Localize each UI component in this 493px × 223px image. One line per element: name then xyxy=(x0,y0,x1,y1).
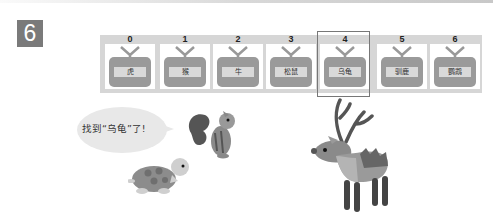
array-index-label: 3 xyxy=(266,34,316,44)
array-index-label: 6 xyxy=(430,34,480,44)
top-rule xyxy=(0,0,493,3)
array-cell: 松鼠 xyxy=(266,44,316,89)
tv-box-icon: 鹦鹉 xyxy=(434,57,476,87)
speech-bubble-text: 找到“乌龟”了! xyxy=(82,121,172,135)
array-cell: 猴 xyxy=(160,44,210,89)
cell-value: 虎 xyxy=(114,67,146,77)
array-cell: 牛 xyxy=(213,44,263,89)
tv-box-icon: 猴 xyxy=(164,57,206,87)
array-index-label: 0 xyxy=(105,34,155,44)
array-cell: 鹦鹉 xyxy=(430,44,480,89)
selected-cell-highlight xyxy=(317,31,370,97)
turtle-icon xyxy=(128,155,196,197)
cell-value: 猴 xyxy=(169,67,201,77)
tv-box-icon: 虎 xyxy=(109,57,151,87)
cell-value: 牛 xyxy=(222,67,254,77)
cell-value: 鹦鹉 xyxy=(439,67,471,77)
cell-value: 驯鹿 xyxy=(386,67,418,77)
array-cell: 驯鹿 xyxy=(377,44,427,89)
array-index-label: 2 xyxy=(213,34,263,44)
problem-number-badge: 6 xyxy=(17,20,43,47)
array-cell: 虎 xyxy=(105,44,155,89)
reindeer-icon xyxy=(306,98,396,218)
tv-box-icon: 牛 xyxy=(217,57,259,87)
array-index-label: 1 xyxy=(160,34,210,44)
tv-box-icon: 松鼠 xyxy=(270,57,312,87)
array-index-label: 5 xyxy=(377,34,427,44)
squirrel-icon xyxy=(183,105,243,160)
tv-box-icon: 驯鹿 xyxy=(381,57,423,87)
cell-value: 松鼠 xyxy=(275,67,307,77)
